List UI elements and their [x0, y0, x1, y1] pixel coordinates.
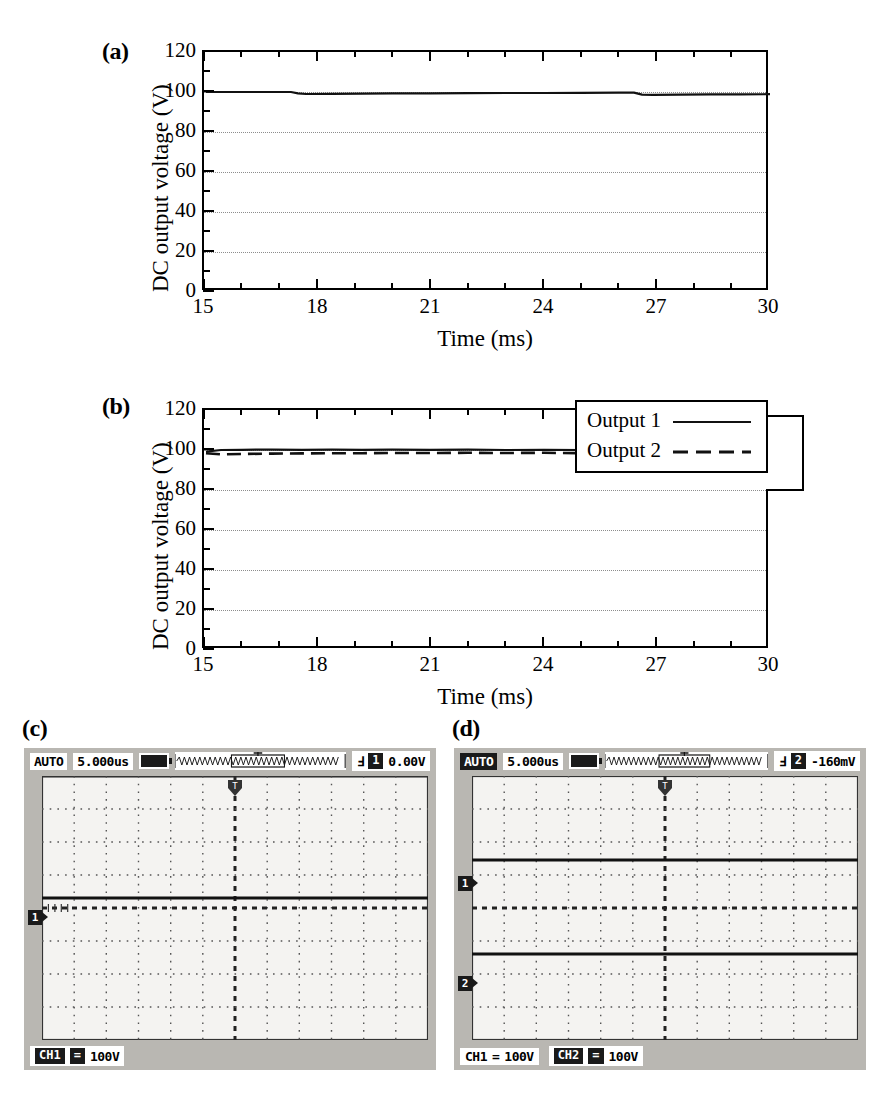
xtick-top-b-24 [542, 408, 544, 419]
xtick-b-18 [316, 637, 318, 648]
legend-swatch-output2-dashed [673, 444, 751, 456]
trigger-position-marker: T [228, 780, 242, 796]
ytick-label-b-80: 80 [130, 478, 196, 499]
legend-row-output1: Output 1 [587, 405, 758, 435]
svg-text:T: T [232, 781, 238, 791]
xtick-b-24 [542, 637, 544, 648]
battery-icon [569, 753, 599, 769]
panel-label-d: (d) [452, 715, 480, 742]
scope-d-ch1-ground-marker[interactable]: 1 [458, 876, 472, 891]
x-axis-title-b: Time (ms) [355, 684, 615, 710]
legend-label-output2: Output 2 [587, 438, 661, 463]
xtick-minor-b-17 [278, 641, 280, 648]
scope-d-bottombar: CH1 = 100V CH2 = 100V [454, 1042, 866, 1070]
xtick-label-b-15: 15 [173, 654, 233, 675]
xtick-label-b-21: 21 [400, 654, 460, 675]
xtick-minor-b-23 [504, 641, 506, 648]
trigger-position-marker: T [658, 780, 672, 796]
ytick-b-60 [203, 528, 214, 530]
gridline-b-60 [204, 530, 766, 531]
ytick-label-b-100: 100 [130, 438, 196, 459]
scope-c-ch1-ground-marker[interactable]: 1 [28, 910, 42, 925]
scope-d-ch1-coupling-icon: = [492, 1050, 499, 1063]
xtick-minor-b-16 [240, 641, 242, 648]
ytick-minor-b-110 [203, 428, 210, 430]
scope-c-ch1-group[interactable]: CH1 = 100V [30, 1046, 124, 1065]
scope-c-timebase[interactable]: 5.000us [73, 753, 132, 770]
scope-c-ch1-coupling-icon: = [70, 1048, 85, 1063]
ytick-label-b-120: 120 [130, 398, 196, 419]
scope-d-ch2-ground-marker[interactable]: 2 [458, 976, 472, 991]
oscilloscope-panel-d: AUTO 5.000us Ⅎ 2 -160mV [454, 748, 866, 1070]
xtick-top-minor-b-20 [391, 408, 393, 415]
ytick-label-b-20: 20 [130, 598, 196, 619]
ytick-minor-b-30 [203, 588, 210, 590]
xtick-b-21 [429, 637, 431, 648]
xtick-top-minor-b-16 [240, 408, 242, 415]
ytick-label-b-40: 40 [130, 558, 196, 579]
scope-d-ch2-label: CH2 [554, 1048, 584, 1063]
scope-d-memory-waveform[interactable] [605, 752, 769, 770]
xtick-b-27 [655, 637, 657, 648]
xtick-top-minor-b-22 [467, 408, 469, 415]
xtick-b-15 [203, 637, 205, 648]
ytick-b-100 [203, 448, 214, 450]
scope-c-topbar: AUTO 5.000us Ⅎ 1 0.00V [24, 748, 436, 774]
scope-c-acquisition-mode[interactable]: AUTO [30, 753, 67, 770]
legend-swatch-output1-solid [673, 414, 751, 426]
ytick-label-b-60: 60 [130, 518, 196, 539]
battery-icon [139, 753, 169, 769]
panel-label-c: (c) [22, 715, 47, 742]
scope-c-trigger-level: 0.00V [388, 755, 425, 768]
scope-d-timebase[interactable]: 5.000us [503, 753, 562, 770]
xtick-top-minor-b-17 [278, 408, 280, 415]
scope-c-graticule[interactable]: T [42, 776, 428, 1040]
xtick-label-b-27: 27 [626, 654, 686, 675]
xtick-top-minor-b-19 [354, 408, 356, 415]
ytick-b-20 [203, 608, 214, 610]
ytick-minor-b-90 [203, 468, 210, 470]
xtick-label-b-18: 18 [287, 654, 347, 675]
scope-c-bottombar: CH1 = 100V [24, 1042, 436, 1070]
scope-d-trigger-source: 2 [791, 753, 806, 768]
scope-c-trigger-group[interactable]: Ⅎ 1 0.00V [352, 751, 430, 770]
xtick-minor-b-19 [354, 641, 356, 648]
scope-d-graticule[interactable]: T [472, 776, 858, 1040]
ytick-b-80 [203, 488, 214, 490]
oscilloscope-panel-c: AUTO 5.000us Ⅎ 1 0.00V [24, 748, 436, 1070]
legend-label-output1: Output 1 [587, 408, 661, 433]
svg-text:T: T [662, 781, 668, 791]
xtick-b-30 [766, 637, 768, 648]
xtick-label-b-24: 24 [513, 654, 573, 675]
scope-d-ch1-label: CH1 [465, 1050, 487, 1063]
gridline-b-80 [204, 490, 766, 491]
scope-d-ch2-group[interactable]: CH2 = 100V [549, 1046, 643, 1065]
xtick-top-minor-b-23 [504, 408, 506, 415]
xtick-minor-b-28 [693, 641, 695, 648]
ytick-minor-b-70 [203, 508, 210, 510]
ytick-b-0 [203, 648, 214, 650]
legend-row-output2: Output 2 [587, 435, 758, 465]
trigger-slope-icon: Ⅎ [357, 755, 364, 768]
ytick-b-40 [203, 568, 214, 570]
scope-d-trigger-level: -160mV [811, 755, 855, 768]
scope-d-ch1-group[interactable]: CH1 = 100V [460, 1048, 539, 1065]
legend-box: Output 1 Output 2 [575, 400, 768, 473]
scope-d-acquisition-mode[interactable]: AUTO [460, 753, 497, 770]
scope-d-ch2-coupling-icon: = [588, 1048, 603, 1063]
xtick-minor-b-22 [467, 641, 469, 648]
xtick-top-b-18 [316, 408, 318, 419]
scope-c-ch1-label: CH1 [35, 1048, 65, 1063]
ytick-minor-b-50 [203, 548, 210, 550]
scope-d-ch1-scale: 100V [504, 1050, 533, 1063]
scope-d-trigger-group[interactable]: Ⅎ 2 -160mV [774, 751, 860, 770]
scope-c-memory-waveform[interactable] [175, 752, 346, 770]
trigger-slope-icon: Ⅎ [779, 755, 786, 768]
scope-c-trigger-source: 1 [368, 753, 383, 768]
scope-c-ch1-scale: 100V [90, 1050, 119, 1063]
gridline-b-40 [204, 570, 766, 571]
ytick-minor-b-10 [203, 628, 210, 630]
scope-d-topbar: AUTO 5.000us Ⅎ 2 -160mV [454, 748, 866, 774]
xtick-minor-b-25 [580, 641, 582, 648]
gridline-b-20 [204, 610, 766, 611]
